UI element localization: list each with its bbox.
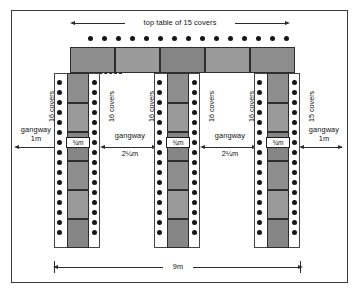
table-segment	[267, 219, 289, 248]
top-table-segment	[70, 47, 115, 73]
chair	[292, 110, 297, 115]
chair	[292, 180, 297, 185]
chair	[292, 220, 297, 225]
chair	[92, 80, 97, 85]
chair	[192, 130, 197, 135]
left-gangway-label: gangway	[12, 125, 60, 134]
second-inner-gangway-dimension-line	[204, 147, 256, 148]
chair	[92, 200, 97, 205]
table-segment	[267, 73, 289, 103]
chair	[92, 150, 97, 155]
chair	[200, 36, 205, 41]
table-segment	[167, 103, 189, 132]
chair	[292, 190, 297, 195]
chair	[292, 150, 297, 155]
right-outer-covers-label: 15 covers	[308, 91, 316, 122]
chair	[257, 140, 262, 145]
chair	[257, 190, 262, 195]
chair	[284, 36, 289, 41]
right-gangway-arrow-right	[338, 145, 343, 149]
chair	[92, 180, 97, 185]
overall-width-tick-left	[54, 261, 55, 273]
chair	[192, 90, 197, 95]
chair	[158, 36, 163, 41]
chair	[92, 100, 97, 105]
chair	[292, 120, 297, 125]
table-segment	[267, 190, 289, 219]
chair	[192, 230, 197, 235]
chair	[257, 220, 262, 225]
chair	[157, 230, 162, 235]
chair	[157, 150, 162, 155]
chair	[292, 90, 297, 95]
chair	[102, 36, 107, 41]
chair	[92, 210, 97, 215]
chair	[57, 150, 62, 155]
top-table-segment	[160, 47, 205, 73]
chair	[57, 90, 62, 95]
first-inner-gangway-arrow-left	[100, 145, 105, 149]
table-segment	[267, 161, 289, 190]
first-inner-gangway-dimension-line	[104, 147, 156, 148]
chair	[257, 230, 262, 235]
chair	[186, 36, 191, 41]
chair	[192, 180, 197, 185]
table-segment	[67, 190, 89, 219]
chair	[92, 130, 97, 135]
chair	[57, 230, 62, 235]
chair	[292, 130, 297, 135]
chair	[157, 210, 162, 215]
chair	[57, 110, 62, 115]
chair	[92, 110, 97, 115]
chair	[192, 200, 197, 205]
table-segment	[267, 103, 289, 132]
chair	[214, 36, 219, 41]
first-inner-gangway-label: gangway	[104, 131, 156, 140]
top-table-segment	[250, 47, 295, 73]
table-segment	[167, 219, 189, 248]
chair	[292, 160, 297, 165]
second-inner-gangway-width: 2¼m	[204, 149, 256, 158]
chair	[157, 80, 162, 85]
chair	[192, 120, 197, 125]
chair	[257, 90, 262, 95]
chair	[292, 80, 297, 85]
chair	[57, 180, 62, 185]
chair	[192, 170, 197, 175]
chair	[157, 120, 162, 125]
table-segment	[67, 73, 89, 103]
chair	[257, 170, 262, 175]
right-gangway-width: 1m	[300, 134, 348, 143]
chair	[57, 220, 62, 225]
chair	[88, 36, 93, 41]
overall-width-dimension-line-right	[193, 267, 298, 268]
chair	[57, 130, 62, 135]
table-segment	[67, 103, 89, 132]
right-gangway-arrow-left	[299, 145, 304, 149]
chair	[257, 130, 262, 135]
chair	[116, 36, 121, 41]
chair	[157, 190, 162, 195]
left-gangway-arrow-left	[14, 145, 19, 149]
chair	[92, 160, 97, 165]
chair	[92, 170, 97, 175]
chair	[57, 190, 62, 195]
chair	[92, 230, 97, 235]
chair	[92, 140, 97, 145]
chair	[130, 36, 135, 41]
chair	[242, 36, 247, 41]
chair	[257, 180, 262, 185]
top-table-dimension-line-left	[75, 23, 125, 24]
chair	[157, 110, 162, 115]
first-inner-gangway-width: 2¼m	[104, 149, 156, 158]
chair	[157, 220, 162, 225]
chair	[92, 90, 97, 95]
table-segment	[167, 161, 189, 190]
chair	[57, 120, 62, 125]
second-inner-gangway-arrow-left	[200, 145, 205, 149]
chair	[257, 110, 262, 115]
left-table-width-badge: ¾m	[66, 137, 90, 148]
chair	[257, 200, 262, 205]
chair	[57, 140, 62, 145]
chair	[270, 36, 275, 41]
